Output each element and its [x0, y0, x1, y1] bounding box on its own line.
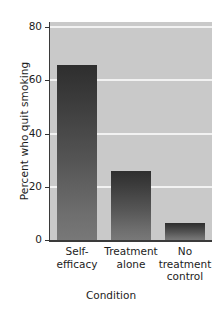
y-tick-label: 0 [16, 234, 42, 245]
x-tick-label-line: control [154, 270, 216, 283]
y-tick-label: 80 [16, 21, 42, 32]
x-tick-label-line: alone [100, 258, 162, 271]
x-tick-label: Treatmentalone [100, 245, 162, 270]
y-tick-mark [45, 240, 50, 241]
y-axis-tick-labels: 020406080 [16, 0, 42, 309]
plot-area [50, 22, 212, 240]
x-axis-line [49, 240, 212, 242]
bar-chart-figure: Percent who quit smoking 020406080 Self-… [0, 0, 222, 309]
x-tick-label-line: efficacy [46, 258, 108, 271]
y-tick-label: 40 [16, 128, 42, 139]
x-tick-label: Self-efficacy [46, 245, 108, 270]
bar [57, 65, 97, 240]
y-tick-mark [45, 134, 50, 135]
x-axis-tick-labels: Self-efficacyTreatmentaloneNotreatmentco… [50, 245, 212, 290]
x-axis-title: Condition [0, 289, 222, 301]
y-tick-mark [45, 80, 50, 81]
y-tick-label: 20 [16, 181, 42, 192]
y-tick-mark [45, 27, 50, 28]
x-tick-label-line: treatment [154, 258, 216, 271]
x-tick-label-line: Treatment [100, 245, 162, 258]
y-tick-mark [45, 187, 50, 188]
x-tick-label-line: Self- [46, 245, 108, 258]
y-tick-label: 60 [16, 74, 42, 85]
x-tick-label-line: No [154, 245, 216, 258]
bar [111, 171, 151, 240]
x-tick-label: Notreatmentcontrol [154, 245, 216, 283]
bar [165, 223, 205, 240]
gridline [50, 26, 212, 28]
